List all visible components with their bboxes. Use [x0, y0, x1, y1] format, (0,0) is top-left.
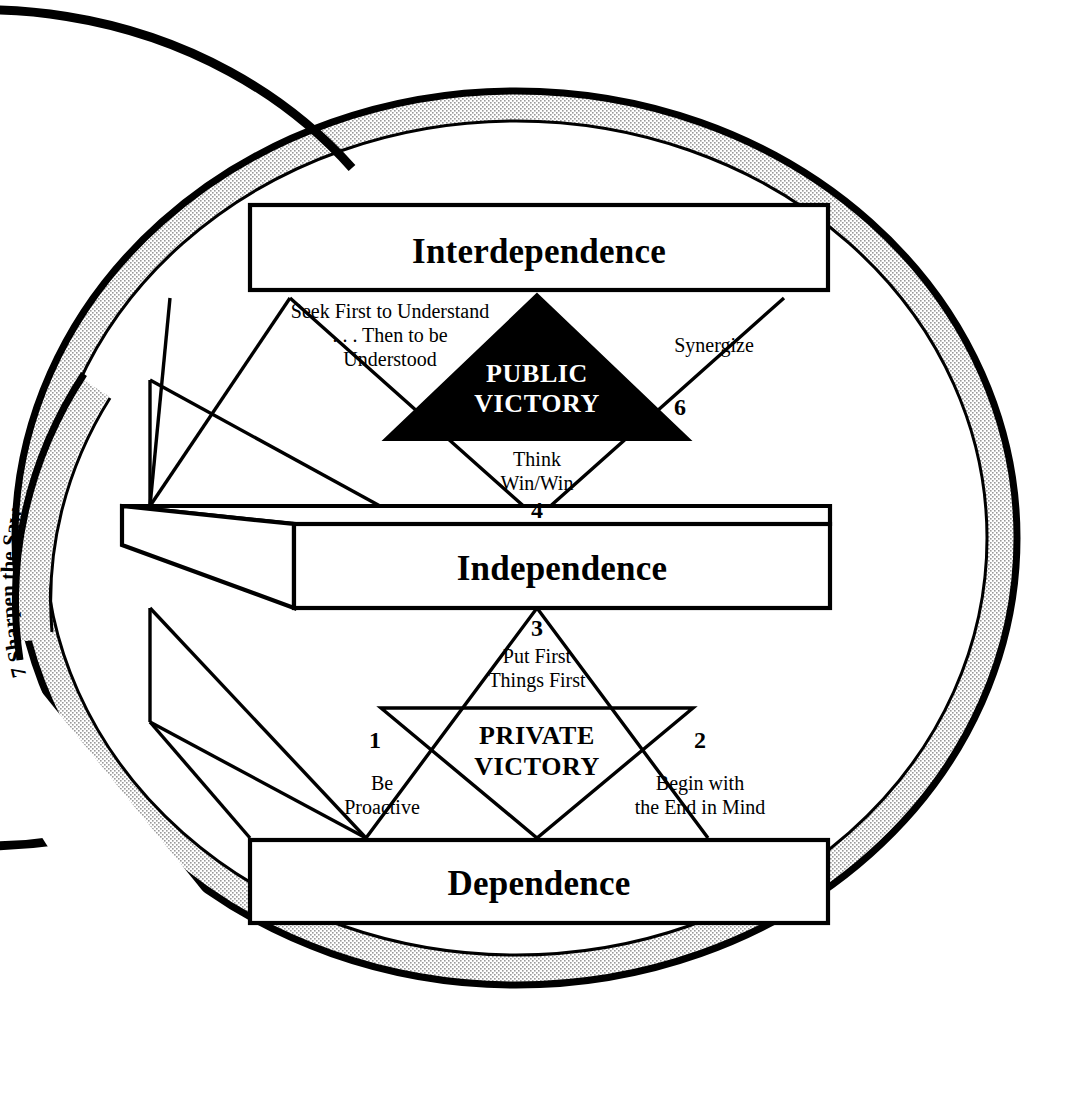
habit-2-line2: the End in Mind	[635, 796, 766, 818]
habit-2-line1: Begin with	[656, 772, 744, 795]
habit-6-number: 6	[674, 394, 686, 420]
habit-1-line1: Be	[371, 772, 393, 794]
maturity-continuum-diagram: 7 Sharpen the Saw	[0, 0, 1069, 1103]
habit-1-line2: Proactive	[344, 796, 420, 818]
lower-left-wedge	[150, 608, 366, 838]
habit-1-number: 1	[369, 727, 381, 753]
habit-3-line2: Things First	[488, 669, 586, 692]
public-victory-line1: PUBLIC	[486, 359, 588, 388]
private-victory-line1: PRIVATE	[479, 721, 595, 750]
dependence-label: Dependence	[448, 864, 631, 903]
private-victory-group	[150, 608, 708, 838]
habit-5-line3: Understood	[343, 348, 436, 370]
dependence-box: Dependence	[250, 840, 828, 923]
habit-6-line1: Synergize	[674, 334, 754, 357]
interdependence-box: Interdependence	[250, 205, 828, 290]
interdependence-label: Interdependence	[412, 232, 666, 271]
habit-3-number: 3	[531, 615, 543, 641]
habit-5-number: 5	[436, 394, 448, 420]
habit-4-number: 4	[531, 497, 543, 523]
independence-slab: Independence	[122, 506, 830, 608]
habit-3-line1: Put First	[503, 645, 572, 667]
habit-2-number: 2	[694, 727, 706, 753]
ring-left-segment	[15, 374, 110, 660]
habit-5-line1: Seek First to Understand	[291, 300, 489, 322]
independence-label: Independence	[457, 549, 668, 588]
habit-4-line1: Think	[513, 448, 561, 470]
diagram-canvas: 7 Sharpen the Saw	[0, 0, 1069, 1103]
public-victory-group	[150, 294, 784, 518]
private-victory-line2: VICTORY	[474, 752, 600, 781]
habit-5-line2: . . . Then to be	[332, 324, 447, 346]
independence-left-face	[122, 506, 294, 608]
public-victory-line2: VICTORY	[474, 389, 600, 418]
habit-4-line2: Win/Win	[501, 472, 574, 494]
ring-break-gap	[0, 690, 210, 960]
